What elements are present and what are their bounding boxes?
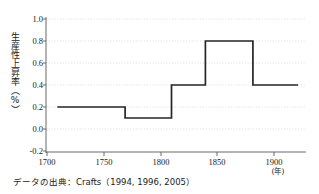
x-tick-label: 1850 [197,158,237,167]
x-tick-label: 1900 [254,158,294,167]
x-axis-tick-labels: 1700 1750 1800 1850 1900 (年) [0,0,319,194]
source-caption: データの出典：Crafts（1994, 1996, 2005） [13,177,195,187]
x-tick-label: 1700 [27,158,67,167]
productivity-growth-chart-figure: 生産性上昇率（%） 1.0 0.8 0.6 0.4 0.2 0.0 -0.2 [0,0,319,194]
x-axis-unit-label: (年) [258,168,298,176]
x-tick-label: 1800 [141,158,181,167]
x-tick-label: 1750 [84,158,124,167]
